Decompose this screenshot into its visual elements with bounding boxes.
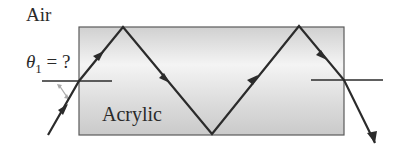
angle-question: = ? (42, 51, 71, 72)
arrow-icon (367, 131, 377, 143)
acrylic-label: Acrylic (102, 103, 162, 126)
diagram: Air θ1 = ? Acrylic (0, 0, 402, 145)
air-label: Air (26, 4, 51, 26)
theta-symbol: θ (26, 51, 35, 72)
angle-marker (57, 84, 69, 99)
angle-label: θ1 = ? (26, 51, 71, 77)
